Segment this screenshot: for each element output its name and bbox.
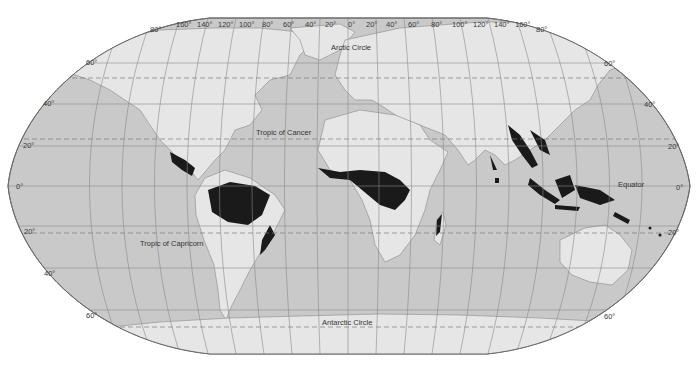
- arctic-circle-label: Arctic Circle: [331, 43, 371, 52]
- lon-label: 160°: [176, 20, 192, 29]
- lat-label: 40°: [43, 99, 54, 108]
- lat-label: 60°: [604, 312, 615, 321]
- lat-label: 80°: [536, 25, 547, 34]
- lon-label: 60°: [408, 20, 419, 29]
- lat-label: 20°: [668, 142, 679, 151]
- map-canvas: 160° 140° 120° 100° 80° 60° 40° 20° 0° 2…: [0, 0, 696, 375]
- lat-label: 40°: [644, 100, 655, 109]
- equator-label: Equator: [618, 180, 645, 189]
- lon-label: 100°: [452, 20, 468, 29]
- tropic-of-cancer-label: Tropic of Cancer: [256, 128, 312, 137]
- lat-label: 60°: [604, 59, 615, 68]
- lat-label: 0°: [676, 183, 683, 192]
- lon-label: 80°: [262, 20, 273, 29]
- longitude-labels: 160° 140° 120° 100° 80° 60° 40° 20° 0° 2…: [176, 20, 531, 29]
- lat-label: 20°: [23, 141, 34, 150]
- tropic-of-capricorn-label: Tropic of Capricorn: [140, 239, 204, 248]
- world-map: 160° 140° 120° 100° 80° 60° 40° 20° 0° 2…: [0, 0, 696, 375]
- antarctic-circle-label: Antarctic Circle: [322, 318, 372, 327]
- lon-label: 100°: [239, 20, 255, 29]
- lon-label: 20°: [366, 20, 377, 29]
- lon-label: 80°: [431, 20, 442, 29]
- lon-label: 60°: [283, 20, 294, 29]
- lon-label: 120°: [218, 20, 234, 29]
- lat-label: 60°: [86, 311, 97, 320]
- lat-label: 0°: [16, 182, 23, 191]
- lon-label: 40°: [386, 20, 397, 29]
- lat-label: 80°: [150, 25, 161, 34]
- lat-label: 60°: [86, 58, 97, 67]
- lon-label: 40°: [305, 20, 316, 29]
- lon-label: 20°: [325, 20, 336, 29]
- lon-label: 0°: [348, 20, 355, 29]
- lat-label: 40°: [44, 269, 55, 278]
- lat-label: 20°: [24, 227, 35, 236]
- lon-label: 120°: [473, 20, 489, 29]
- lon-label: 140°: [494, 20, 510, 29]
- lat-label: 20°: [668, 228, 679, 237]
- lon-label: 160°: [515, 20, 531, 29]
- lon-label: 140°: [197, 20, 213, 29]
